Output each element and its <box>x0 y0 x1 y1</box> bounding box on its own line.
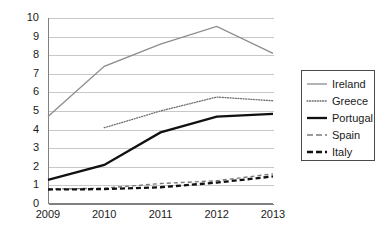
y-axis-tick-label: 7 <box>33 68 39 79</box>
legend-swatch-icon <box>306 78 328 90</box>
legend-item-spain[interactable]: Spain <box>302 126 374 143</box>
series-line-greece <box>104 97 273 128</box>
legend-item-greece[interactable]: Greece <box>302 92 374 109</box>
legend-item-portugal[interactable]: Portugal <box>302 109 374 126</box>
series-line-ireland <box>48 26 273 116</box>
x-axis-tick-label: 2012 <box>197 208 237 220</box>
y-axis-tick-label: 10 <box>27 12 39 23</box>
chart-legend: IrelandGreecePortugalSpainItaly <box>301 70 375 161</box>
legend-item-label: Ireland <box>332 78 366 90</box>
x-axis-tick-label: 2013 <box>253 208 293 220</box>
x-axis-tick-label: 2011 <box>141 208 181 220</box>
legend-swatch-icon <box>306 112 328 124</box>
legend-item-label: Italy <box>332 146 352 158</box>
legend-item-italy[interactable]: Italy <box>302 143 374 160</box>
legend-swatch-icon <box>306 146 328 158</box>
y-axis-tick-label: 2 <box>33 161 39 172</box>
legend-item-label: Greece <box>332 95 368 107</box>
legend-item-ireland[interactable]: Ireland <box>302 75 374 92</box>
y-axis-tick-label: 8 <box>33 49 39 60</box>
legend-item-label: Portugal <box>332 112 373 124</box>
x-axis-labels: 20092010201120122013 <box>48 208 273 228</box>
y-axis-labels: 012345678910 <box>0 18 44 204</box>
gridline <box>49 204 274 205</box>
series-line-portugal <box>48 114 273 180</box>
y-axis-tick-label: 6 <box>33 86 39 97</box>
x-axis-tick-label: 2010 <box>84 208 124 220</box>
y-axis-tick-label: 1 <box>33 179 39 190</box>
y-axis-tick-label: 3 <box>33 142 39 153</box>
x-axis-tick-label: 2009 <box>28 208 68 220</box>
series-layer <box>48 18 273 204</box>
y-axis-tick-label: 4 <box>33 124 39 135</box>
y-axis-tick-label: 9 <box>33 31 39 42</box>
legend-item-label: Spain <box>332 129 360 141</box>
legend-swatch-icon <box>306 95 328 107</box>
legend-swatch-icon <box>306 129 328 141</box>
y-axis-tick-label: 5 <box>33 105 39 116</box>
line-chart: 012345678910 20092010201120122013 Irelan… <box>0 0 377 238</box>
